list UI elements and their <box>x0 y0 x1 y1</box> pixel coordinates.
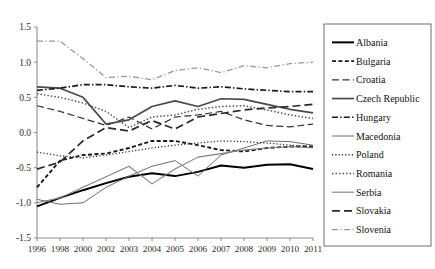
x-tick-label: 2003 <box>120 244 139 254</box>
legend-label-romania: Romania <box>356 168 393 179</box>
line-chart: 1.51.00.50.0-0.5-1.0-1.5 199619982000200… <box>0 0 435 269</box>
y-tick-label: 1.5 <box>19 22 31 32</box>
legend-label-bulgaria: Bulgaria <box>356 56 391 67</box>
x-tick-label: 2000 <box>74 244 93 254</box>
legend-label-hungary: Hungary <box>356 112 391 123</box>
legend-label-poland: Poland <box>356 149 384 160</box>
legend-label-slovakia: Slovakia <box>356 205 392 216</box>
series-line-albania <box>37 164 313 206</box>
x-tick-label: 2008 <box>235 244 254 254</box>
y-axis: 1.51.00.50.0-0.5-1.0-1.5 <box>16 22 37 243</box>
series-line-slovakia <box>37 104 313 169</box>
y-tick-label: -1.5 <box>16 233 31 243</box>
legend-label-macedonia: Macedonia <box>356 131 401 142</box>
x-tick-label: 2002 <box>97 244 116 254</box>
chart-container: 1.51.00.50.0-0.5-1.0-1.5 199619982000200… <box>0 0 435 269</box>
x-tick-label: 2005 <box>166 244 185 254</box>
x-tick-label: 1996 <box>28 244 47 254</box>
y-tick-label: 0.0 <box>19 128 31 138</box>
series-line-czech-republic <box>37 87 313 124</box>
legend-label-albania: Albania <box>356 37 388 48</box>
series-line-croatia <box>37 106 313 129</box>
legend-label-croatia: Croatia <box>356 74 386 85</box>
x-tick-label: 2010 <box>281 244 300 254</box>
x-tick-label: 2006 <box>189 244 208 254</box>
x-tick-label: 2007 <box>212 244 231 254</box>
legend-label-serbia: Serbia <box>356 187 382 198</box>
series-lines <box>37 41 313 206</box>
y-tick-label: -1.0 <box>16 198 31 208</box>
x-tick-label: 2004 <box>143 244 162 254</box>
series-line-macedonia <box>37 141 313 204</box>
y-tick-label: 1.0 <box>19 58 31 68</box>
series-line-slovenia <box>37 41 313 80</box>
chart-legend: AlbaniaBulgariaCroatiaCzech RepublicHung… <box>324 24 431 246</box>
series-line-serbia <box>37 147 313 203</box>
y-tick-label: -0.5 <box>16 163 31 173</box>
x-tick-label: 2009 <box>258 244 277 254</box>
series-line-hungary <box>37 85 313 92</box>
x-tick-label: 1998 <box>51 244 70 254</box>
y-tick-label: 0.5 <box>19 93 31 103</box>
x-axis: 1996199820002002200320042005200620072008… <box>28 238 323 254</box>
legend-label-czech-republic: Czech Republic <box>356 93 420 104</box>
series-line-romania <box>37 94 313 128</box>
legend-label-slovenia: Slovenia <box>356 224 392 235</box>
x-tick-label: 2011 <box>304 244 322 254</box>
